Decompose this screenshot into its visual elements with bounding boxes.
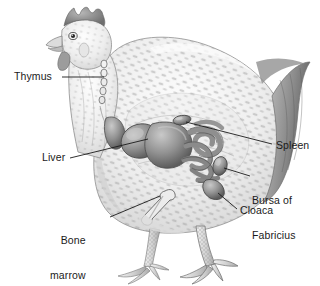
- label-bursa-line2: Fabricius: [252, 230, 296, 242]
- label-cloaca: Cloaca: [240, 205, 273, 217]
- beak: [46, 36, 63, 51]
- label-bone-marrow-line1: Bone: [50, 235, 86, 247]
- earlobe: [79, 43, 89, 57]
- anatomy-figure: Thymus Liver Bone marrow Spleen Bursa of…: [0, 0, 320, 286]
- eye: [69, 32, 77, 39]
- label-bone-marrow-line2: marrow: [50, 270, 86, 282]
- label-bone-marrow: Bone marrow: [50, 212, 86, 286]
- label-bursa-of-fabricius: Bursa of Fabricius: [252, 172, 296, 264]
- label-liver: Liver: [42, 152, 65, 164]
- wattle: [58, 52, 70, 71]
- label-spleen: Spleen: [276, 140, 309, 152]
- leg-far: [118, 228, 169, 284]
- label-thymus: Thymus: [14, 71, 52, 83]
- leg-near: [180, 226, 238, 284]
